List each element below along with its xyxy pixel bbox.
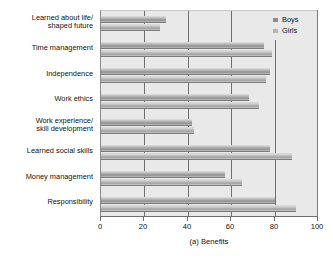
x-tick-label-100: 100 (302, 222, 332, 231)
bar-row (101, 153, 318, 160)
bar-row (101, 102, 318, 109)
bar-girls-5 (101, 153, 292, 160)
bar-boys-3 (101, 94, 249, 101)
bar-boys-7 (101, 197, 275, 204)
x-tick-20 (143, 217, 144, 221)
x-tick-100 (317, 217, 318, 221)
bar-girls-4 (101, 127, 194, 134)
category-axis-labels: Learned about life/ shaped futureTime ma… (0, 10, 96, 216)
legend-swatch-icon (273, 29, 278, 33)
bar-boys-4 (101, 119, 192, 126)
x-tick-80 (274, 217, 275, 221)
plot-area (100, 10, 318, 217)
x-tick-label-80: 80 (259, 222, 289, 231)
x-tick-label-40: 40 (172, 222, 202, 231)
category-label-5: Learned social skills (0, 147, 93, 156)
x-tick-label-60: 60 (215, 222, 245, 231)
category-label-3: Work ethics (0, 95, 93, 104)
legend-label: Girls (282, 25, 297, 36)
bar-row (101, 76, 318, 83)
category-label-7: Responsibility (0, 198, 93, 207)
bar-girls-3 (101, 102, 259, 109)
bar-boys-5 (101, 145, 270, 152)
grouped-bar-chart: Learned about life/ shaped futureTime ma… (0, 0, 333, 264)
x-axis-caption: (a) Benefits (100, 237, 318, 246)
plot-frame-right-edge (317, 10, 318, 217)
category-label-2: Independence (0, 70, 93, 79)
category-label-0: Learned about life/ shaped future (0, 14, 93, 31)
x-axis-line (100, 216, 318, 217)
bar-boys-1 (101, 42, 264, 49)
x-tick-40 (187, 217, 188, 221)
legend-label: Boys (282, 14, 298, 25)
legend: BoysGirls (268, 11, 316, 40)
bar-row (101, 145, 318, 152)
bar-boys-2 (101, 68, 270, 75)
legend-item-girls[interactable]: Girls (268, 25, 316, 36)
bar-girls-7 (101, 205, 296, 212)
bar-row (101, 68, 318, 75)
x-tick-0 (100, 217, 101, 221)
x-tick-label-20: 20 (128, 222, 158, 231)
bar-row (101, 171, 318, 178)
bar-girls-6 (101, 179, 242, 186)
x-tick-60 (230, 217, 231, 221)
bar-girls-1 (101, 50, 272, 57)
legend-item-boys[interactable]: Boys (268, 14, 316, 25)
bar-row (101, 119, 318, 126)
bar-row (101, 205, 318, 212)
bar-row (101, 197, 318, 204)
bar-row (101, 94, 318, 101)
bar-row (101, 127, 318, 134)
x-tick-label-0: 0 (85, 222, 115, 231)
category-label-1: Time management (0, 44, 93, 53)
bar-girls-2 (101, 76, 266, 83)
bar-row (101, 179, 318, 186)
bar-girls-0 (101, 24, 160, 31)
category-label-6: Money management (0, 173, 93, 182)
legend-swatch-icon (273, 18, 278, 22)
bar-boys-6 (101, 171, 225, 178)
bar-boys-0 (101, 16, 166, 23)
category-label-4: Work experience/ skill development (0, 117, 93, 134)
bar-row (101, 50, 318, 57)
bar-row (101, 42, 318, 49)
